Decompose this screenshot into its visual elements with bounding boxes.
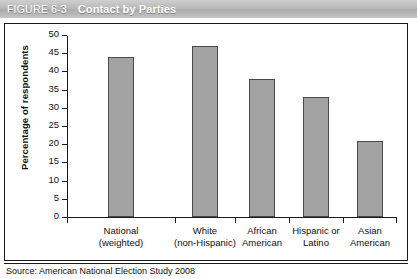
y-axis-tick-label: 25 — [37, 119, 59, 130]
y-axis-tick: 15 — [62, 162, 67, 163]
bar — [357, 141, 383, 217]
bar — [108, 57, 134, 217]
y-axis-tick-label: 50 — [37, 28, 59, 39]
y-axis-tick: 50 — [62, 35, 67, 36]
source-divider — [4, 263, 408, 264]
y-axis-tick-label: 20 — [37, 137, 59, 148]
x-axis-tick — [175, 218, 176, 223]
plot-area: 05101520253035404550 — [67, 36, 397, 218]
y-axis-tick-label: 0 — [37, 210, 59, 221]
y-axis-title: Percentage of respondents — [19, 23, 30, 193]
x-axis-tick — [396, 218, 397, 223]
source-note: Source: American National Election Study… — [6, 266, 195, 276]
x-axis-tick — [289, 218, 290, 223]
x-axis-tick — [235, 218, 236, 223]
y-axis-tick-label: 10 — [37, 174, 59, 185]
y-axis-tick-label: 45 — [37, 46, 59, 57]
y-axis-tick-label: 5 — [37, 192, 59, 203]
x-axis-ticks — [67, 218, 397, 224]
x-axis-label: AsianAmerican — [337, 225, 403, 249]
y-axis-tick-label: 15 — [37, 155, 59, 166]
figure-header: FIGURE 6-3 Contact by Parties — [0, 0, 417, 19]
y-axis-tick: 5 — [62, 199, 67, 200]
x-axis-tick — [67, 218, 68, 223]
figure-number: FIGURE 6-3 — [7, 3, 67, 15]
y-axis-tick-label: 30 — [37, 101, 59, 112]
y-axis-tick: 10 — [62, 181, 67, 182]
x-axis-labels: National(weighted)White(non-Hispanic)Afr… — [67, 225, 397, 259]
y-axis-tick: 20 — [62, 144, 67, 145]
figure-title: Contact by Parties — [78, 3, 176, 15]
y-axis-tick-label: 35 — [37, 83, 59, 94]
x-axis-tick — [343, 218, 344, 223]
bar — [192, 46, 218, 217]
x-axis-label: National(weighted) — [61, 225, 181, 249]
y-axis-tick: 40 — [62, 71, 67, 72]
y-axis-tick: 25 — [62, 126, 67, 127]
y-axis-tick: 30 — [62, 108, 67, 109]
chart-frame: Percentage of respondents 05101520253035… — [4, 23, 408, 261]
y-axis-tick: 35 — [62, 90, 67, 91]
bar — [303, 97, 329, 217]
y-axis-line — [67, 36, 68, 218]
y-axis-tick-label: 40 — [37, 64, 59, 75]
bar — [249, 79, 275, 217]
y-axis-tick: 45 — [62, 53, 67, 54]
